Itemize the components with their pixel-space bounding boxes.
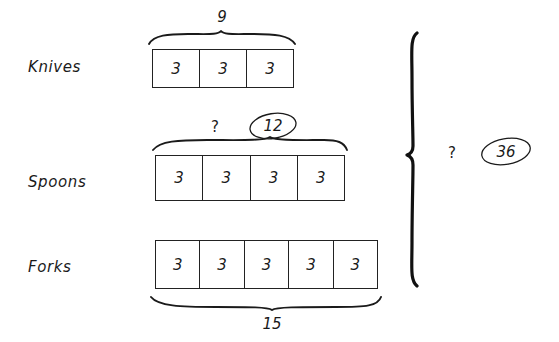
tape-diagram-canvas: Knives 9 3 3 3 Spoons ? 12 3 3 3 3 Forks…	[0, 0, 559, 342]
tape-cell: 3	[156, 156, 203, 200]
circled-grand-total-value: 36	[496, 143, 515, 161]
tape-cell: 3	[153, 50, 200, 87]
tape-cell: 3	[200, 241, 244, 288]
tape-forks: 3 3 3 3 3	[155, 240, 378, 289]
tape-cell: 3	[200, 50, 247, 87]
row-label-spoons: Spoons	[28, 173, 86, 191]
total-label-knives: 9	[198, 8, 246, 26]
tape-knives: 3 3 3	[152, 49, 294, 88]
unknown-mark-grand-total: ?	[448, 144, 456, 162]
tape-spoons: 3 3 3 3	[155, 155, 345, 201]
tape-cell: 3	[156, 241, 200, 288]
unknown-mark-spoons: ?	[211, 118, 219, 136]
row-label-forks: Forks	[28, 258, 71, 276]
brace-spoons-top	[152, 136, 348, 152]
tape-cell: 3	[298, 156, 344, 200]
brace-knives-top	[148, 30, 296, 46]
brace-grand-total	[400, 30, 430, 290]
tape-cell: 3	[203, 156, 250, 200]
tape-cell: 3	[334, 241, 377, 288]
circled-grand-total: 36	[480, 136, 532, 167]
total-label-forks: 15	[248, 315, 296, 333]
circled-total-spoons-value: 12	[263, 117, 282, 135]
tape-cell: 3	[289, 241, 333, 288]
row-label-knives: Knives	[28, 58, 81, 76]
tape-cell: 3	[247, 50, 293, 87]
tape-cell: 3	[251, 156, 298, 200]
tape-cell: 3	[245, 241, 289, 288]
brace-forks-bottom	[150, 296, 382, 312]
